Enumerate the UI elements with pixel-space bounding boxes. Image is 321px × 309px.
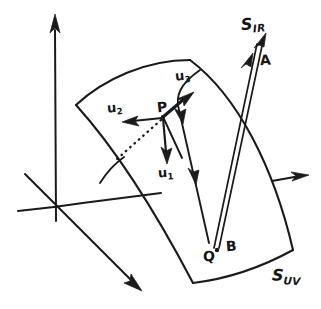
incident-ray-group — [214, 33, 266, 252]
label-vector-u2-subscript: 2 — [116, 106, 123, 117]
label-surface-ir-subscript: IR — [252, 21, 266, 34]
label-point-a-text: A — [259, 52, 271, 69]
label-point-q-text: Q — [203, 248, 216, 265]
vector-u2-line — [133, 118, 162, 121]
label-surface-uv-subscript: UV — [283, 274, 301, 287]
label-point-q: Q — [203, 249, 216, 264]
curvature-arc — [100, 157, 124, 183]
incident-ray-midpoint-arrowhead — [241, 53, 253, 68]
incident-ray-arrowhead — [254, 33, 266, 48]
label-vector-u1-subscript: 1 — [167, 171, 174, 181]
incident-ray-edge-2 — [219, 46, 262, 248]
label-vector-u2: u2 — [106, 100, 123, 117]
label-vector-u3-subscript: 3 — [184, 74, 191, 85]
label-surface-ir-base: S — [240, 14, 253, 34]
label-vector-u1: u1 — [157, 165, 173, 181]
label-surface-uv: SUV — [272, 267, 302, 286]
surface-top-edge — [76, 60, 190, 105]
label-point-a: A — [260, 53, 272, 68]
label-vector-u3: u3 — [174, 68, 191, 85]
depth-axis-line — [25, 174, 131, 280]
label-point-p-text: P — [156, 99, 168, 116]
incident-ray-edge-1 — [214, 44, 257, 248]
surface-left-edge — [76, 105, 193, 283]
label-point-p: P — [156, 100, 168, 115]
label-point-b: B — [226, 239, 238, 254]
point-q-marker — [215, 248, 219, 252]
label-point-b-text: B — [225, 238, 237, 255]
diagram-canvas: P A B Q u1 u2 u3 SIR SUV — [0, 0, 321, 309]
vertical-axis-line — [55, 30, 56, 221]
surface-flow-curve — [178, 70, 209, 243]
surface-right-edge — [190, 60, 293, 250]
diagram-svg — [0, 0, 321, 309]
horizontal-axis-left-stub — [18, 207, 54, 211]
label-surface-ir: SIR — [240, 15, 266, 35]
point-p-marker — [161, 115, 165, 119]
